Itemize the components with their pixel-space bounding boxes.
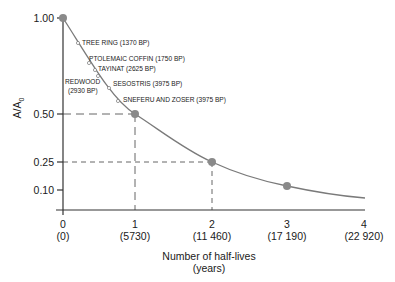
marker-tree-ring [76, 41, 79, 44]
marker-sneferu [116, 99, 119, 102]
point-3 [283, 182, 291, 190]
y-tick-labels: 1.00 0.50 0.25 0.10 [34, 12, 55, 196]
x-label-0: 0 [60, 218, 66, 230]
marker-sesostris [107, 86, 110, 89]
point-0 [59, 14, 67, 22]
annotations: TREE RING (1370 BP) PTOLEMAIC COFFIN (17… [65, 39, 226, 104]
annotation-ptolemaic-coffin: PTOLEMAIC COFFIN (1750 BP) [89, 55, 185, 63]
y-axis-title: A/A0 [11, 97, 25, 118]
annotation-redwood-2: (2930 BP) [68, 87, 98, 95]
annotation-tayinat: TAYINAT (2625 BP) [98, 65, 156, 73]
x-axis-title-line2: (years) [193, 262, 226, 274]
x-label-2: 2 [209, 218, 215, 230]
y-label-010: 0.10 [34, 184, 55, 196]
x-axis-title: Number of half-lives (years) [162, 250, 255, 274]
y-label-100: 1.00 [34, 12, 55, 24]
x-sublabel-3: (17 190) [267, 230, 306, 242]
point-2 [208, 158, 216, 166]
x-tick-labels: 0 (0) 1 (5730) 2 (11 460) 3 (17 190) 4 (… [57, 218, 384, 242]
annotation-sneferu-zoser: SNEFERU AND ZOSER (3975 BP) [123, 96, 226, 104]
x-label-1: 1 [132, 218, 138, 230]
decay-chart: TREE RING (1370 BP) PTOLEMAIC COFFIN (17… [0, 0, 395, 282]
y-label-025: 0.25 [34, 156, 55, 168]
annotation-redwood-1: REDWOOD [65, 78, 100, 85]
x-sublabel-0: (0) [57, 230, 70, 242]
point-1 [131, 110, 139, 118]
y-axis-title-sub: 0 [18, 97, 25, 101]
x-sublabel-4: (22 920) [344, 230, 383, 242]
x-axis-title-line1: Number of half-lives [162, 250, 255, 262]
svg-text:A/A0: A/A0 [11, 97, 25, 118]
reference-lines [63, 114, 212, 210]
x-label-3: 3 [284, 218, 290, 230]
y-label-050: 0.50 [34, 108, 55, 120]
y-axis-title-main: A/A [11, 101, 23, 118]
axes [56, 18, 365, 215]
annotation-sesostris: SESOSTRIS (3975 BP) [113, 80, 182, 88]
annotation-tree-ring: TREE RING (1370 BP) [82, 39, 149, 47]
x-sublabel-2: (11 460) [193, 230, 231, 242]
x-sublabel-1: (5730) [120, 230, 150, 242]
marker-tayinat [93, 68, 96, 71]
x-label-4: 4 [361, 218, 367, 230]
